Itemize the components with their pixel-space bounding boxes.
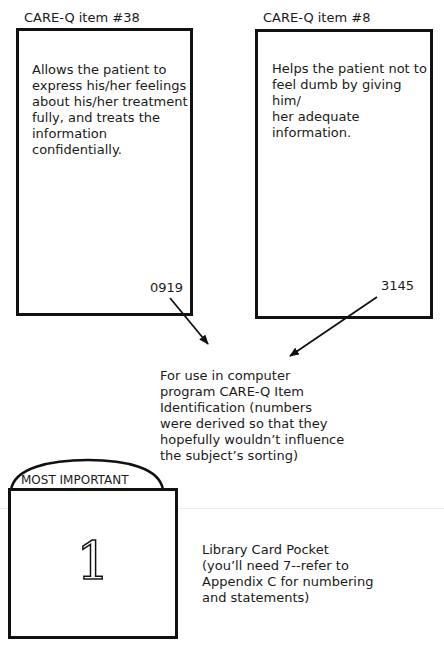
arrow-down-right-icon	[170, 298, 208, 344]
pocket-explanation-note: Library Card Pocket (you’ll need 7--refe…	[202, 542, 373, 606]
note-line: the subject’s sorting)	[160, 448, 344, 464]
note-line: hopefully wouldn’t influence	[160, 432, 344, 448]
code-explanation-note: For use in computer program CARE-Q Item …	[160, 368, 344, 464]
arrow-down-left-icon	[290, 297, 377, 356]
note-line: (you’ll need 7--refer to	[202, 558, 373, 574]
library-card-pocket: 1	[8, 488, 178, 639]
note-line: Appendix C for numbering	[202, 574, 373, 590]
note-line: For use in computer	[160, 368, 344, 384]
note-line: were derived so that they	[160, 416, 344, 432]
note-line: Library Card Pocket	[202, 542, 373, 558]
pocket-number: 1	[11, 535, 175, 587]
pocket-tab-label: MOST IMPORTANT	[21, 473, 129, 487]
note-line: and statements)	[202, 590, 373, 606]
note-line: program CARE-Q Item	[160, 384, 344, 400]
note-line: Identification (numbers	[160, 400, 344, 416]
